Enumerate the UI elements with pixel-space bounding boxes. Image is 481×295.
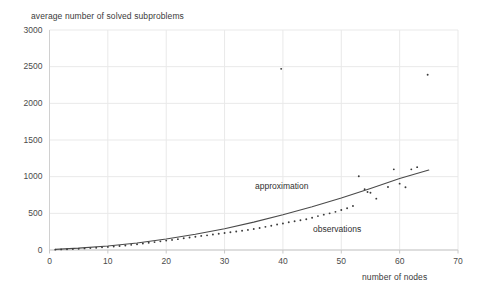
x-tick-label: 50: [326, 256, 356, 266]
y-tick-label: 0: [9, 245, 43, 255]
x-tick-label: 20: [151, 256, 181, 266]
grid-lines: [50, 30, 459, 250]
annotation-observations: observations: [313, 224, 361, 234]
chart-container: average number of solved subproblems num…: [0, 0, 481, 295]
x-tick-label: 30: [210, 256, 240, 266]
x-tick-label: 40: [268, 256, 298, 266]
y-tick-label: 1000: [9, 171, 43, 181]
axis-lines: [50, 30, 459, 254]
plot-area: [0, 0, 481, 295]
y-tick-label: 3000: [9, 25, 43, 35]
y-tick-label: 1500: [9, 135, 43, 145]
x-tick-label: 70: [443, 256, 473, 266]
x-tick-label: 10: [93, 256, 123, 266]
y-tick-label: 2000: [9, 98, 43, 108]
annotation-approximation: approximation: [255, 181, 308, 191]
y-axis-title: average number of solved subproblems: [31, 11, 184, 21]
x-axis-title: number of nodes: [362, 272, 427, 282]
y-tick-label: 500: [9, 208, 43, 218]
x-tick-label: 0: [35, 256, 65, 266]
series-line-approximation: [55, 170, 428, 249]
x-tick-label: 60: [385, 256, 415, 266]
y-tick-label: 2500: [9, 61, 43, 71]
series-points-observations: [54, 68, 428, 251]
